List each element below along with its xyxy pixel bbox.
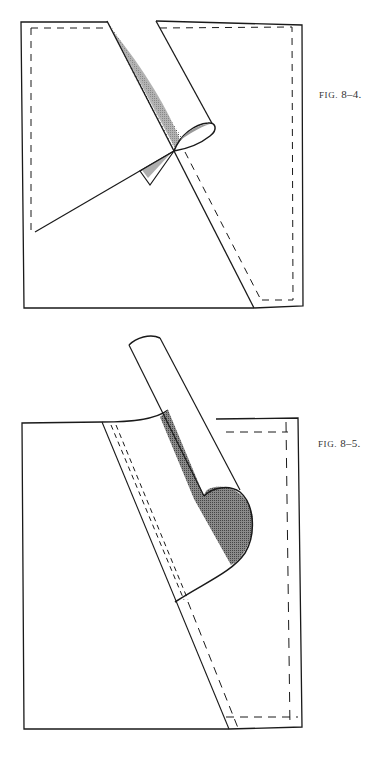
seam-line-vertical (286, 422, 290, 728)
caption-prefix: FIG. (319, 90, 338, 100)
caption-prefix: FIG. (318, 439, 337, 449)
fold-line-left (35, 151, 174, 232)
stitch-line-1 (111, 425, 184, 600)
roll-edge-left (107, 21, 174, 151)
outer-edge (22, 422, 229, 729)
seam-diagonal (185, 152, 262, 302)
outer-edge-right (156, 21, 303, 308)
caption-number: 8–5. (340, 437, 360, 449)
fold-line (102, 422, 229, 729)
figure-caption-8-5: FIG. 8–5. (318, 437, 361, 449)
caption-number: 8–4. (341, 88, 361, 100)
figure-8-5: FIG. 8–5. (0, 320, 385, 765)
tube-edge-right (160, 338, 240, 490)
flap-top-edge (102, 410, 168, 422)
folding-diagram-8-4 (0, 0, 385, 320)
folding-diagram-8-5 (0, 320, 385, 765)
seam-diagonal (188, 602, 238, 728)
figure-caption-8-4: FIG. 8–4. (319, 88, 362, 100)
crease-line (174, 151, 254, 308)
figure-8-4: FIG. 8–4. (0, 0, 385, 320)
